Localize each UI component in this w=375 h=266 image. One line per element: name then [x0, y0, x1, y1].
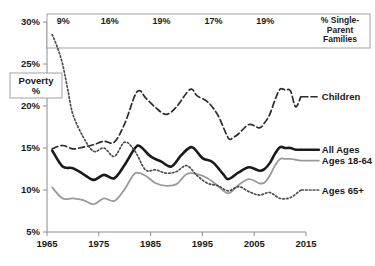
- series-line-all-ages: [52, 145, 301, 180]
- single-parent-pct-cell: 16%: [101, 16, 119, 26]
- y-axis-label-line1: Poverty: [19, 75, 55, 86]
- y-tick-label: 25%: [21, 58, 41, 69]
- x-tick-label: 1985: [140, 238, 162, 249]
- y-tick-label: 10%: [21, 184, 41, 195]
- single-parent-pct-cell: 9%: [57, 16, 70, 26]
- chart-canvas: 30%25%20%15%10%5%19651975198519952005201…: [0, 0, 375, 266]
- x-tick-label: 1995: [192, 238, 214, 249]
- single-parent-pct-cell: 19%: [153, 16, 171, 26]
- x-tick-label: 1965: [36, 238, 58, 249]
- table-title-line: % Single-: [321, 15, 359, 25]
- series-line-ages-65-: [52, 35, 301, 199]
- y-tick-label: 20%: [21, 100, 41, 111]
- poverty-rate-chart: 30%25%20%15%10%5%19651975198519952005201…: [0, 0, 375, 266]
- single-parent-pct-cell: 17%: [204, 16, 222, 26]
- y-axis: 30%25%20%15%10%5%: [21, 16, 47, 237]
- legend-label-ages-65-: Ages 65+: [322, 185, 364, 196]
- legend: ChildrenAll AgesAges 18-64Ages 65+: [302, 91, 373, 195]
- legend-label-children: Children: [322, 91, 361, 102]
- x-tick-label: 2005: [244, 238, 266, 249]
- x-axis: 196519751985199520052015: [36, 232, 317, 249]
- y-tick-label: 30%: [21, 16, 41, 27]
- series-lines: [52, 35, 301, 205]
- series-line-ages-18-64: [52, 158, 301, 204]
- y-axis-label-line2: %: [32, 85, 41, 96]
- single-parent-families-table: 9%16%19%17%19%% Single-ParentFamilies: [47, 14, 370, 48]
- x-tick-label: 2015: [295, 238, 317, 249]
- x-tick-label: 1975: [88, 238, 110, 249]
- legend-label-all-ages: All Ages: [322, 144, 360, 155]
- legend-label-ages-18-64: Ages 18-64: [322, 155, 373, 166]
- y-axis-label-box: Poverty%: [10, 73, 62, 98]
- y-tick-label: 5%: [26, 226, 40, 237]
- table-title-line: Parent: [327, 25, 354, 35]
- y-tick-label: 15%: [21, 142, 41, 153]
- series-line-children: [52, 89, 301, 149]
- table-title-line: Families: [323, 34, 357, 44]
- single-parent-pct-cell: 19%: [256, 16, 274, 26]
